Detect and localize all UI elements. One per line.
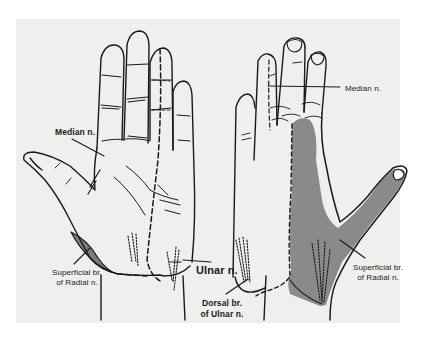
palmar-ulnar-nerve-label: Ulnar n.	[196, 266, 238, 275]
palmar-superficial-radial-label-2: of Radial n.	[40, 278, 114, 287]
palmar-superficial-radial-label-1: Superficial br.	[40, 268, 114, 277]
dorsal-superficial-radial-label-1: Superficial br.	[340, 263, 416, 272]
palmar-median-nerve-label: Median n.	[55, 128, 95, 137]
dorsal-median-nerve-label: Median n.	[345, 84, 381, 93]
hand-illustration	[0, 0, 429, 342]
dorsal-superficial-radial-label-2: of Radial n.	[340, 273, 416, 282]
dorsal-ulnar-branch-label-1: Dorsal br.	[190, 299, 254, 308]
dorsal-ulnar-branch-label-2: of Ulnar n.	[190, 310, 254, 319]
